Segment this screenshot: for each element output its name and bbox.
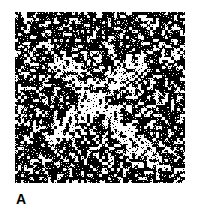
noise-x-image — [15, 12, 185, 183]
figure: A — [0, 0, 200, 217]
noise-image-panel — [15, 12, 185, 183]
panel-label: A — [16, 191, 26, 207]
